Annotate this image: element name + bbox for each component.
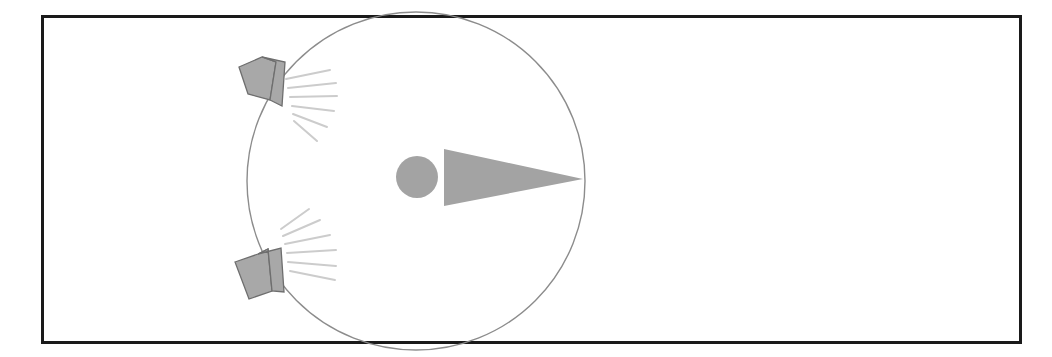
- speaker-top-left-ray-3: [290, 96, 337, 97]
- diagram-canvas: [0, 0, 1052, 357]
- figure-container: Stereo speaker placement and listening p…: [0, 0, 1052, 357]
- listener-head-icon: [396, 156, 438, 198]
